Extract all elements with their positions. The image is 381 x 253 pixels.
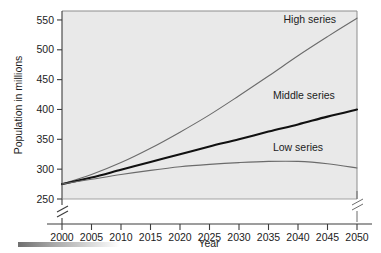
x-axis-title: Year [198, 237, 220, 249]
plot-area-background [62, 11, 357, 199]
y-tick-label: 500 [36, 43, 54, 55]
series-label-middle-series: Middle series [273, 89, 335, 101]
chart-figure: 250300350400450500550 200020052010201520… [0, 0, 381, 253]
x-tick-label: 2045 [316, 231, 340, 243]
y-tick-label: 450 [36, 73, 54, 85]
series-label-low-series: Low series [273, 141, 323, 153]
chart-svg: 250300350400450500550 200020052010201520… [0, 0, 381, 253]
x-tick-label: 2035 [257, 231, 281, 243]
y-tick-label: 300 [36, 163, 54, 175]
x-tick-label: 2010 [109, 231, 133, 243]
y-axis-title: Population in millions [12, 56, 24, 155]
y-tick-label: 350 [36, 133, 54, 145]
y-tick-label: 400 [36, 103, 54, 115]
y-tick-label: 250 [36, 193, 54, 205]
x-tick-label: 2000 [50, 231, 74, 243]
x-tick-label: 2020 [168, 231, 192, 243]
x-tick-label: 2005 [80, 231, 104, 243]
x-tick-label: 2030 [227, 231, 251, 243]
x-tick-label: 2040 [286, 231, 310, 243]
x-tick-label: 2015 [139, 231, 163, 243]
x-tick-label: 2050 [345, 231, 369, 243]
series-label-high-series: High series [284, 13, 337, 25]
y-tick-label: 550 [36, 14, 54, 26]
scan-gradient-bar [18, 242, 120, 247]
